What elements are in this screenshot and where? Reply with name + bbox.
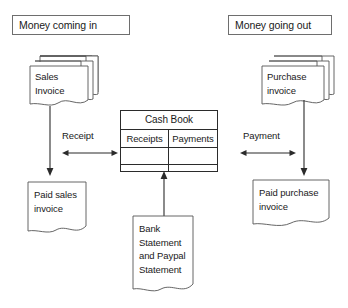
purchase-invoice-line-2: invoice	[267, 84, 325, 98]
connector-label-payment: Payment	[243, 131, 280, 141]
sales-invoice-line-2: Invoice	[35, 84, 91, 98]
double-arrow-receipt-icon	[62, 148, 118, 158]
cash-book-table: Cash Book Receipts Payments	[120, 110, 218, 172]
purchase-invoice-line-1: Purchase	[267, 70, 325, 84]
bank-statement-line-4: Statement	[139, 263, 197, 277]
bank-statement-line-2: Statement	[139, 236, 197, 250]
diagram-canvas: Money coming in Money going out Sales In…	[0, 0, 348, 308]
node-sales-invoice: Sales Invoice	[28, 54, 100, 108]
purchase-invoice-label: Purchase invoice	[267, 70, 325, 97]
bank-statement-line-1: Bank	[139, 222, 197, 236]
sales-invoice-line-1: Sales	[35, 70, 91, 84]
section-label-money-going-out-text: Money going out	[235, 20, 311, 31]
cash-book-row	[121, 148, 217, 165]
node-paid-sales-invoice: Paid sales invoice	[26, 180, 92, 238]
cash-book-column-payments: Payments	[169, 130, 217, 147]
paid-purchase-invoice-line-2: invoice	[259, 200, 333, 214]
cash-book-cell	[169, 165, 217, 172]
section-label-money-going-out: Money going out	[228, 15, 332, 35]
node-paid-purchase-invoice: Paid purchase invoice	[251, 178, 335, 230]
paid-sales-invoice-line-2: invoice	[34, 202, 90, 216]
cash-book-cell	[121, 148, 169, 164]
cash-book-column-receipts: Receipts	[121, 130, 169, 147]
node-bank-statement: Bank Statement and Paypal Statement	[131, 214, 197, 298]
arrow-down-sales-to-paid-icon	[44, 106, 56, 176]
cash-book-cell	[169, 148, 217, 164]
arrow-up-bank-to-cashbook-icon	[158, 171, 170, 216]
paid-purchase-invoice-label: Paid purchase invoice	[259, 186, 333, 213]
cash-book-header-row: Receipts Payments	[121, 130, 217, 148]
double-arrow-payment-icon	[240, 148, 296, 158]
paid-sales-invoice-line-1: Paid sales	[34, 188, 90, 202]
section-label-money-coming-in-text: Money coming in	[19, 20, 97, 31]
cash-book-title: Cash Book	[121, 111, 217, 130]
bank-statement-line-3: and Paypal	[139, 249, 197, 263]
bank-statement-label: Bank Statement and Paypal Statement	[139, 222, 197, 276]
arrow-down-purchase-to-paid-icon	[298, 100, 310, 176]
paid-purchase-invoice-line-1: Paid purchase	[259, 186, 333, 200]
paid-sales-invoice-label: Paid sales invoice	[34, 188, 90, 215]
section-label-money-coming-in: Money coming in	[12, 15, 130, 35]
sales-invoice-label: Sales Invoice	[35, 70, 91, 97]
connector-label-receipt: Receipt	[62, 131, 94, 141]
